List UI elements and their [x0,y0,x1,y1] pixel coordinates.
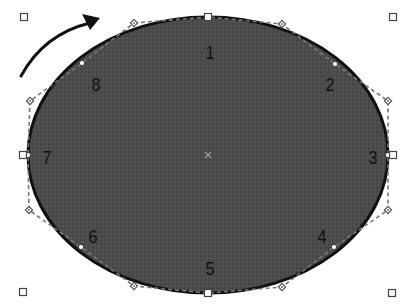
node-number: 5 [206,259,215,278]
resize-handle-icon[interactable] [205,14,212,21]
resize-handle-icon[interactable] [389,290,396,297]
resize-handle-icon[interactable] [390,152,397,159]
node-number: 7 [43,148,52,167]
path-node-4[interactable] [331,244,336,249]
control-handle-dot [28,209,30,211]
control-handle-dot [133,285,135,287]
node-label-5: 5 [205,259,216,278]
node-number: 6 [89,227,98,246]
path-node-2[interactable] [332,61,337,66]
control-handle-dot [281,286,283,288]
node-label-8: 8 [91,75,102,94]
node-number: 4 [318,227,327,246]
path-node-6[interactable] [78,244,83,249]
resize-handle-icon[interactable] [21,14,28,21]
node-label-6: 6 [88,227,99,246]
control-handle-dot [281,23,283,25]
node-number: 8 [92,75,101,94]
path-node-8[interactable] [79,60,84,65]
node-label-7: 7 [42,148,53,167]
resize-handle-icon[interactable] [20,152,27,159]
node-label-2: 2 [325,75,336,94]
node-number: 1 [206,43,215,62]
node-label-3: 3 [368,148,379,167]
resize-handle-icon[interactable] [390,14,397,21]
node-label-1: 1 [205,43,216,62]
resize-handle-icon[interactable] [20,289,27,296]
node-number: 3 [369,148,378,167]
node-label-4: 4 [317,227,328,246]
control-handle-dot [387,100,389,102]
node-number: 2 [326,75,335,94]
control-handle-dot [387,209,389,211]
arrowhead-icon [82,14,100,30]
resize-handle-icon[interactable] [205,290,212,297]
control-handle-dot [133,22,135,24]
control-handle-dot [29,100,31,102]
